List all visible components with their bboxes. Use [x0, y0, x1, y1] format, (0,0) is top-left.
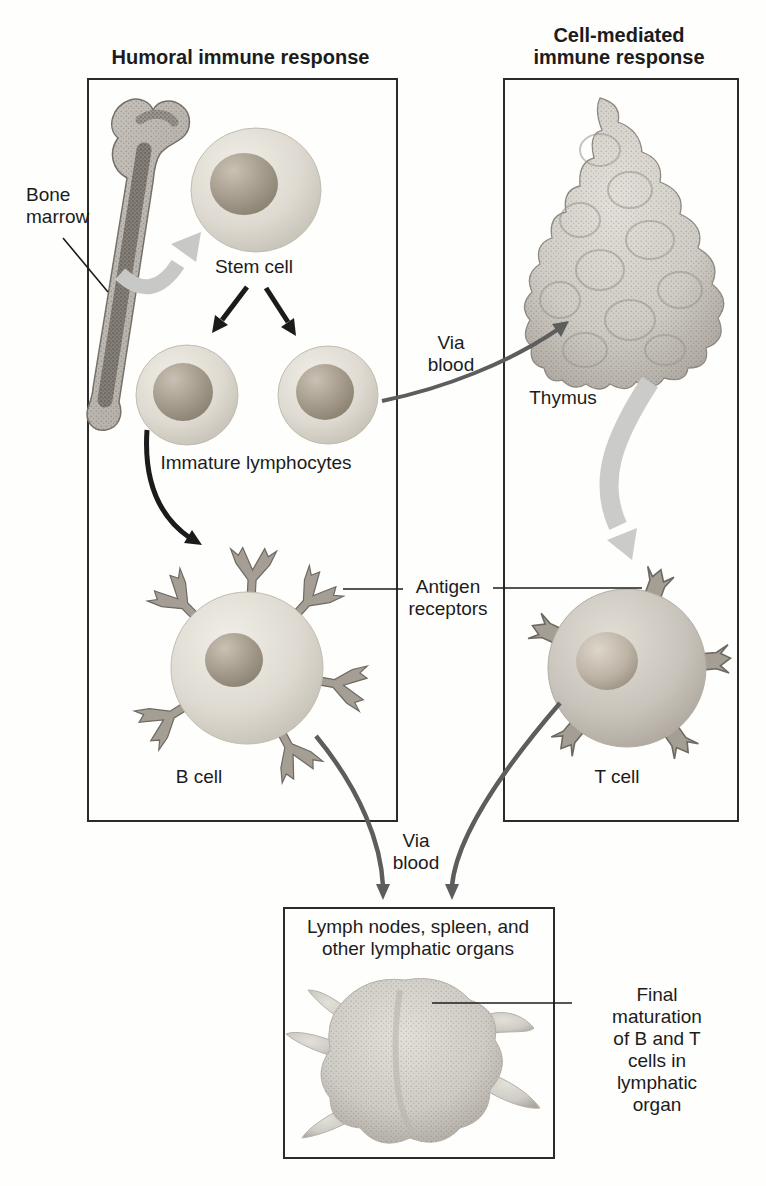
immature-lymphocyte-right [278, 346, 378, 444]
thymus-to-tcell-arrow [607, 382, 650, 560]
b-cell-illustration [133, 547, 369, 785]
bcell-to-lymph-arrow [316, 736, 390, 900]
stem-to-lymphocyte-arrows [212, 287, 296, 336]
lymphatic-organs-caption: Lymph nodes, spleen, and other lymphatic… [288, 916, 548, 960]
humoral-panel-title: Humoral immune response [87, 46, 394, 68]
bone-marrow-label: Bone marrow [26, 184, 89, 228]
stem-cell-illustration [191, 128, 321, 252]
stem-cell-label: Stem cell [215, 256, 293, 278]
bone-marrow-pointer-line [63, 238, 108, 292]
t-cell-label: T cell [594, 766, 639, 788]
final-maturation-label: Final maturation of B and T cells in lym… [603, 984, 712, 1116]
immature-lymphocyte-left [136, 345, 238, 445]
thymus-illustration [524, 98, 723, 389]
thymus-label: Thymus [529, 387, 597, 409]
b-cell-label: B cell [176, 766, 222, 788]
figure-canvas: Humoral immune response Cell-mediated im… [0, 0, 766, 1186]
immature-lymphocytes-label: Immature lymphocytes [160, 452, 351, 474]
t-cell-illustration [527, 565, 732, 761]
lymphocyte-to-bcell-arrow [147, 430, 202, 545]
tcell-to-lymph-arrow [445, 703, 560, 900]
cell-mediated-panel-title: Cell-mediated immune response [503, 24, 735, 68]
antigen-receptors-label: Antigen receptors [408, 576, 487, 620]
via-blood-top-label: Via blood [428, 332, 475, 376]
via-blood-bottom-label: Via blood [393, 830, 440, 874]
